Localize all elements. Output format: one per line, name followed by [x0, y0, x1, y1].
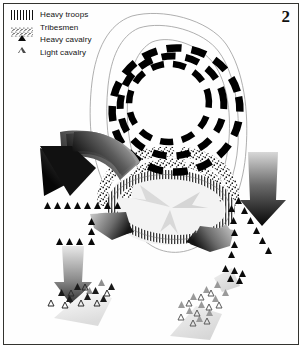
arrow-straight-right[interactable] [240, 152, 286, 226]
legend: Heavy troops Tribesmen Heavy cavalry Lig… [11, 9, 141, 59]
legend-item-heavy-troops: Heavy troops [11, 9, 141, 22]
legend-label-heavy-troops: Heavy troops [40, 10, 88, 20]
legend-item-light-cavalry: Light cavalry [11, 47, 141, 60]
stipple-dots-swatch-icon [11, 23, 33, 33]
plate-number: 2 [282, 7, 291, 27]
legend-item-heavy-cavalry: Heavy cavalry [11, 34, 141, 47]
filled-triangle-icon [11, 35, 33, 46]
battle-map-figure: Heavy troops Tribesmen Heavy cavalry Lig… [0, 0, 304, 350]
legend-label-light-cavalry: Light cavalry [40, 48, 86, 58]
legend-item-tribesmen: Tribesmen [11, 22, 141, 35]
legend-label-tribesmen: Tribesmen [40, 23, 78, 33]
legend-label-heavy-cavalry: Heavy cavalry [40, 35, 91, 45]
open-triangle-icon [11, 47, 33, 58]
vertical-hatch-swatch-icon [11, 10, 33, 20]
heavy-cavalry-line-lower-left [56, 238, 83, 245]
